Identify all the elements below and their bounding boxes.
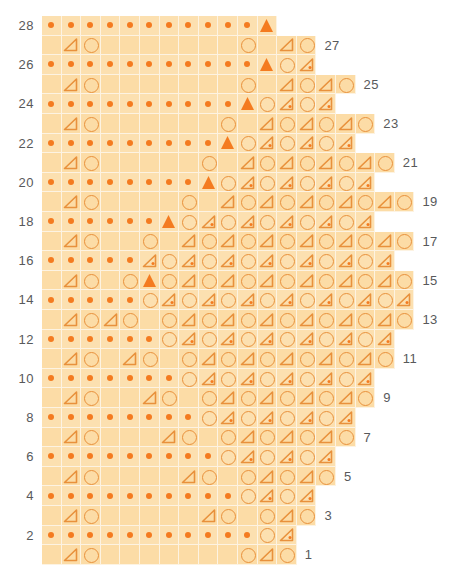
chart-row-6	[42, 447, 336, 467]
chart-cell-yarn-over	[238, 232, 258, 252]
chart-cell-single-dot-stitch	[199, 55, 219, 75]
chart-cell-yarn-over	[258, 290, 278, 310]
chart-cell-single-dot-stitch	[101, 173, 121, 193]
chart-cell-plain-decrease-triangle	[258, 232, 278, 252]
chart-cell-single-dot-stitch	[101, 330, 121, 350]
chart-cell-yarn-over	[258, 506, 278, 526]
chart-cell-yarn-over	[277, 408, 297, 428]
chart-cell-single-dot-stitch	[42, 447, 62, 467]
chart-cell-yarn-over	[336, 428, 356, 448]
chart-cell-yarn-over	[81, 349, 101, 369]
chart-cell-single-dot-stitch	[179, 16, 199, 36]
chart-cell-yarn-over	[395, 271, 415, 291]
chart-cell-single-dot-stitch	[62, 212, 82, 232]
chart-cell-yarn-over	[277, 388, 297, 408]
chart-cell-single-dot-stitch	[199, 526, 219, 546]
chart-cell-yarn-over	[297, 36, 317, 56]
chart-cell-yarn-over	[316, 232, 336, 252]
chart-cell-no-stitch	[120, 467, 140, 487]
chart-cell-single-dot-stitch	[101, 486, 121, 506]
chart-cell-plain-decrease-triangle	[62, 232, 82, 252]
chart-cell-plain-decrease-triangle	[297, 467, 317, 487]
chart-row-28	[42, 16, 277, 36]
row-number-label-13: 13	[422, 310, 437, 330]
chart-cell-yarn-over	[297, 506, 317, 526]
chart-cell-plain-decrease-triangle	[62, 153, 82, 173]
chart-cell-plain-decrease-triangle	[62, 310, 82, 330]
chart-cell-yarn-over	[238, 271, 258, 291]
chart-cell-yarn-over	[81, 36, 101, 56]
chart-cell-single-dot-stitch	[42, 290, 62, 310]
chart-cell-plain-decrease-triangle	[258, 467, 278, 487]
chart-cell-yarn-over	[120, 271, 140, 291]
chart-cell-yarn-over	[179, 349, 199, 369]
chart-row-10	[42, 369, 375, 389]
chart-cell-no-stitch	[42, 506, 62, 526]
chart-cell-no-stitch	[120, 36, 140, 56]
chart-cell-yarn-over	[336, 290, 356, 310]
chart-cell-yarn-over	[316, 408, 336, 428]
chart-cell-yarn-over	[160, 251, 180, 271]
chart-cell-single-dot-stitch	[199, 94, 219, 114]
chart-cell-single-dot-stitch	[140, 369, 160, 389]
chart-cell-no-stitch	[218, 153, 238, 173]
chart-cell-dotted-decrease-triangle	[258, 486, 278, 506]
chart-cell-yarn-over	[316, 330, 336, 350]
chart-cell-dotted-decrease-triangle	[277, 173, 297, 193]
chart-cell-single-dot-stitch	[140, 55, 160, 75]
chart-row-12	[42, 330, 395, 350]
chart-cell-single-dot-stitch	[140, 486, 160, 506]
chart-cell-no-stitch	[120, 545, 140, 565]
chart-cell-plain-decrease-triangle	[277, 75, 297, 95]
chart-cell-dotted-decrease-triangle	[297, 486, 317, 506]
chart-cell-single-dot-stitch	[42, 330, 62, 350]
chart-cell-single-dot-stitch	[81, 526, 101, 546]
chart-cell-single-dot-stitch	[160, 369, 180, 389]
chart-cell-single-dot-stitch	[120, 55, 140, 75]
chart-cell-no-stitch	[199, 114, 219, 134]
chart-cell-yarn-over	[297, 173, 317, 193]
chart-cell-yarn-over	[81, 75, 101, 95]
row-number-label-10: 10	[0, 369, 34, 389]
chart-cell-no-stitch	[101, 75, 121, 95]
chart-cell-single-dot-stitch	[179, 173, 199, 193]
chart-cell-dotted-decrease-triangle	[316, 447, 336, 467]
chart-cell-yarn-over	[238, 192, 258, 212]
chart-cell-single-dot-stitch	[140, 16, 160, 36]
chart-cell-yarn-over	[297, 428, 317, 448]
chart-cell-no-stitch	[42, 232, 62, 252]
chart-cell-yarn-over	[218, 290, 238, 310]
chart-cell-yarn-over	[297, 153, 317, 173]
chart-cell-single-dot-stitch	[101, 212, 121, 232]
chart-cell-dotted-decrease-triangle	[297, 251, 317, 271]
chart-cell-single-dot-stitch	[101, 251, 121, 271]
chart-cell-no-stitch	[101, 428, 121, 448]
chart-cell-no-stitch	[101, 114, 121, 134]
chart-cell-dotted-decrease-triangle	[316, 290, 336, 310]
chart-cell-no-stitch	[101, 36, 121, 56]
chart-cell-single-dot-stitch	[42, 526, 62, 546]
chart-row-1	[42, 545, 297, 565]
chart-cell-plain-decrease-triangle	[62, 349, 82, 369]
chart-cell-dotted-decrease-triangle	[199, 212, 219, 232]
chart-cell-yarn-over	[238, 75, 258, 95]
chart-cell-plain-decrease-triangle	[297, 388, 317, 408]
chart-cell-no-stitch	[101, 153, 121, 173]
chart-cell-no-stitch	[199, 545, 219, 565]
chart-cell-dotted-decrease-triangle	[316, 94, 336, 114]
chart-cell-yarn-over	[336, 369, 356, 389]
chart-cell-single-dot-stitch	[140, 408, 160, 428]
chart-cell-single-dot-stitch	[120, 134, 140, 154]
chart-cell-filled-special-triangle	[258, 55, 278, 75]
chart-cell-plain-decrease-triangle	[297, 114, 317, 134]
chart-cell-no-stitch	[101, 388, 121, 408]
chart-cell-no-stitch	[218, 467, 238, 487]
chart-cell-no-stitch	[140, 36, 160, 56]
chart-cell-yarn-over	[395, 232, 415, 252]
chart-cell-no-stitch	[140, 114, 160, 134]
chart-cell-plain-decrease-triangle	[199, 349, 219, 369]
chart-cell-yarn-over	[258, 173, 278, 193]
chart-cell-filled-special-triangle	[140, 271, 160, 291]
chart-cell-yarn-over	[199, 310, 219, 330]
chart-cell-yarn-over	[140, 290, 160, 310]
